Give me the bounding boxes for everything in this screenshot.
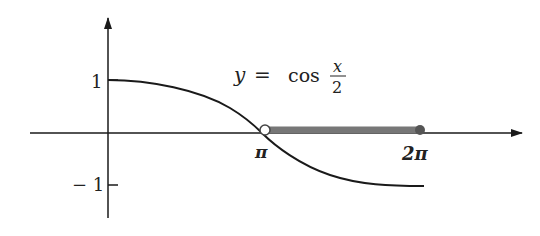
chart: 1 − 1 π 2π y = cos x 2 [0, 0, 540, 236]
x-tick-label-pi: π [254, 142, 268, 162]
equation-numerator: x [333, 57, 342, 76]
y-tick-label-neg-one: − 1 [72, 174, 104, 195]
interval-closed-endpoint [415, 125, 425, 135]
interval-open-endpoint [260, 125, 270, 135]
equation-lhs: y [233, 63, 246, 87]
equation-equals: = [254, 63, 271, 87]
equation-denominator: 2 [332, 78, 342, 97]
y-tick-label-one: 1 [91, 71, 102, 92]
equation-cos: cos [288, 64, 320, 86]
equation-label: y = cos x 2 [233, 57, 346, 97]
x-tick-label-2pi: 2π [401, 143, 429, 164]
